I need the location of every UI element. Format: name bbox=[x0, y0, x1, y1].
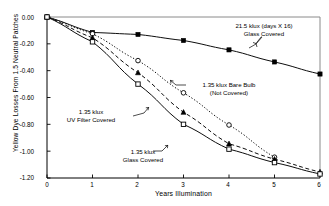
series-0-marker-3 bbox=[181, 38, 185, 42]
chart-figure: Yellow Dye Losses From 1.5 Neutral Patch… bbox=[0, 0, 329, 206]
series-3-marker-1 bbox=[90, 40, 94, 44]
series-0-marker-2 bbox=[136, 32, 140, 36]
plot-canvas bbox=[0, 0, 329, 206]
series-1-marker-4 bbox=[227, 123, 232, 128]
series-3-marker-6 bbox=[318, 172, 322, 176]
series-3-marker-2 bbox=[136, 82, 140, 86]
series-2-marker-3 bbox=[181, 110, 186, 115]
series-1-line bbox=[47, 17, 275, 157]
series-1-marker-2 bbox=[136, 58, 141, 63]
series-0-marker-6 bbox=[318, 72, 322, 76]
series-0-marker-4 bbox=[227, 48, 231, 52]
series-0-marker-5 bbox=[272, 60, 276, 64]
series-3-marker-4 bbox=[227, 147, 231, 151]
leader-2 bbox=[133, 107, 149, 116]
series-0-line bbox=[47, 17, 320, 74]
series-layer bbox=[45, 14, 323, 176]
series-2-marker-4 bbox=[227, 141, 232, 146]
series-0 bbox=[45, 15, 322, 76]
series-3-marker-0 bbox=[45, 15, 49, 19]
leader-0-arrow bbox=[253, 37, 262, 48]
series-2-marker-2 bbox=[136, 70, 141, 75]
series-3-marker-3 bbox=[181, 122, 185, 126]
series-1-marker-3 bbox=[181, 91, 186, 96]
series-1 bbox=[45, 15, 277, 160]
series-3-marker-5 bbox=[272, 160, 276, 164]
